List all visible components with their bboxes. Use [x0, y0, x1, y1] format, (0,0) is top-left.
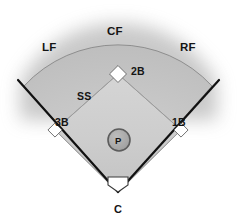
label-third-base: 3B	[55, 117, 69, 128]
label-pitcher: P	[115, 136, 122, 146]
label-second-base: 2B	[131, 66, 145, 77]
label-center-field: CF	[107, 26, 123, 38]
label-right-field: RF	[180, 42, 196, 54]
label-left-field: LF	[42, 42, 56, 54]
label-shortstop: SS	[77, 91, 91, 102]
label-first-base: 1B	[172, 117, 186, 128]
baseball-field-diagram: CF LF RF 2B SS 3B 1B P C	[0, 0, 237, 223]
home-plate-marker	[108, 177, 128, 192]
label-catcher: C	[114, 204, 122, 215]
